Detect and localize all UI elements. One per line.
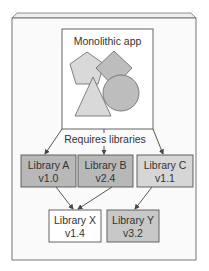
requires-libraries-label: Requires libraries — [64, 133, 146, 145]
library-y-name: Library Y — [112, 214, 154, 226]
circle-shape — [103, 75, 139, 111]
library-b-version: v2.4 — [96, 172, 116, 184]
library-c-box: Library C v1.1 — [137, 155, 193, 187]
library-a-box: Library A v1.0 — [21, 155, 76, 187]
monolith-dependency-diagram: Monolithic app Requires libraries Librar… — [0, 0, 209, 271]
library-x-version: v1.4 — [65, 227, 85, 239]
library-b-box: Library B v2.4 — [78, 155, 133, 187]
library-x-box: Library X v1.4 — [49, 210, 101, 242]
library-x-name: Library X — [54, 214, 96, 226]
library-a-name: Library A — [28, 159, 69, 171]
library-y-box: Library Y v3.2 — [107, 210, 159, 242]
monolithic-app-box: Monolithic app — [62, 29, 153, 129]
library-b-name: Library B — [84, 159, 126, 171]
library-c-name: Library C — [144, 159, 187, 171]
app-title: Monolithic app — [74, 35, 142, 47]
library-a-version: v1.0 — [39, 172, 59, 184]
library-c-version: v1.1 — [155, 172, 175, 184]
library-y-version: v3.2 — [123, 227, 143, 239]
